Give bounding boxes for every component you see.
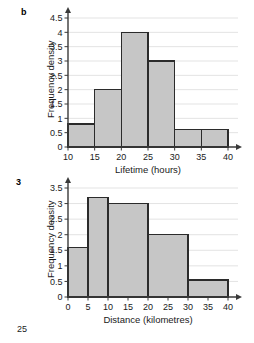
y-tick-label: 2.5	[50, 71, 63, 81]
page-number: 25	[17, 324, 27, 334]
y-axis-arrow	[65, 7, 71, 13]
y-tick-label: 1.5	[50, 99, 63, 109]
figure-b: b Frequency density Lifetime (hours) 101…	[0, 0, 254, 172]
x-tick-label: 35	[196, 152, 206, 162]
y-axis-arrow	[65, 177, 71, 183]
x-tick-label: 20	[143, 302, 153, 312]
y-tick-label: 0	[57, 292, 62, 302]
y-tick-label: 2.5	[50, 214, 63, 224]
y-tick-label: 3.5	[50, 183, 63, 193]
x-tick-label: 30	[170, 152, 180, 162]
y-tick-label: 3.5	[50, 42, 63, 52]
histogram-bar	[175, 130, 202, 147]
histogram-bar	[68, 124, 95, 147]
y-tick-label: 0.5	[50, 128, 63, 138]
histogram-bar	[95, 90, 122, 147]
histogram-bar	[68, 247, 88, 297]
x-tick-label: 20	[116, 152, 126, 162]
histogram-bar	[188, 280, 228, 297]
y-tick-label: 0	[57, 142, 62, 152]
histogram-bar	[201, 130, 228, 147]
y-tick-label: 3	[57, 199, 62, 209]
x-axis-arrow	[236, 294, 242, 300]
histogram-bar	[148, 61, 175, 147]
x-tick-label: 15	[123, 302, 133, 312]
histogram-bar	[108, 204, 148, 297]
x-tick-label: 30	[183, 302, 193, 312]
x-tick-label: 25	[143, 152, 153, 162]
y-tick-label: 2	[57, 85, 62, 95]
y-tick-label: 2	[57, 230, 62, 240]
y-tick-label: 1	[57, 261, 62, 271]
x-tick-label: 40	[223, 302, 233, 312]
x-tick-label: 10	[103, 302, 113, 312]
histogram-bar	[88, 197, 108, 297]
figure-3: 3 Frequency density Distance (kilometres…	[0, 172, 254, 318]
y-tick-label: 4.5	[50, 13, 63, 23]
x-tick-label: 5	[85, 302, 90, 312]
histogram-bar	[121, 32, 148, 147]
x-tick-label: 15	[90, 152, 100, 162]
y-tick-label: 1	[57, 114, 62, 124]
y-tick-label: 3	[57, 56, 62, 66]
x-tick-label: 25	[163, 302, 173, 312]
histogram-3: 051015202530354000.511.522.533.5	[0, 172, 254, 318]
y-tick-label: 4	[57, 28, 62, 38]
x-tick-label: 0	[65, 302, 70, 312]
x-tick-label: 10	[63, 152, 73, 162]
x-axis-arrow	[236, 144, 242, 150]
histogram-bar	[148, 235, 188, 297]
y-tick-label: 1.5	[50, 245, 63, 255]
histogram-b: 1015202530354000.511.522.533.544.5	[0, 0, 254, 172]
x-tick-label: 40	[223, 152, 233, 162]
x-tick-label: 35	[203, 302, 213, 312]
y-tick-label: 0.5	[50, 277, 63, 287]
